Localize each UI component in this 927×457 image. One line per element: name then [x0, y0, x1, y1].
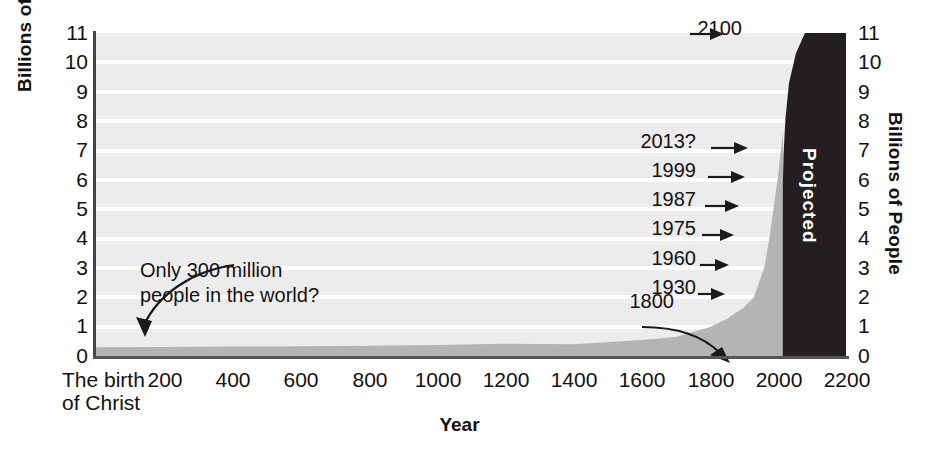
y-tick-right-11: 11: [846, 22, 906, 43]
arrow-1930: [698, 288, 725, 300]
y-tick-right-8: 8: [846, 110, 906, 131]
y-tick-right-1: 1: [846, 315, 906, 336]
annotation-early-population: Only 300 million people in the world?: [140, 258, 319, 308]
y-tick-right-10: 10: [846, 51, 906, 72]
annotation-1987: 1987: [628, 189, 696, 209]
y-tick-left-9: 9: [48, 81, 88, 102]
y-tick-right-2: 2: [846, 286, 906, 307]
annotation-1975: 1975: [628, 218, 696, 238]
y-tick-left-2: 2: [48, 286, 88, 307]
y-tick-right-3: 3: [846, 257, 906, 278]
y-tick-left-6: 6: [48, 169, 88, 190]
y-tick-left-11: 11: [48, 22, 88, 43]
y-tick-right-4: 4: [846, 227, 906, 248]
population-chart-figure: Billions of People Billions of People: [0, 0, 927, 457]
y-tick-left-4: 4: [48, 227, 88, 248]
y-tick-left-8: 8: [48, 110, 88, 131]
arrow-1987: [705, 200, 739, 212]
y-tick-left-5: 5: [48, 198, 88, 219]
annotation-2013: 2013?: [618, 131, 696, 151]
y-tick-right-5: 5: [846, 198, 906, 219]
annotation-1960: 1960: [628, 248, 696, 268]
y-tick-right-7: 7: [846, 139, 906, 160]
x-tick-2200: 2200: [802, 368, 892, 391]
y-tick-right-9: 9: [846, 81, 906, 102]
projected-region-label: Projected: [798, 148, 820, 244]
y-tick-left-3: 3: [48, 257, 88, 278]
annotation-1930: 1930: [628, 277, 696, 297]
y-tick-left-1: 1: [48, 315, 88, 336]
arrow-2100: [690, 28, 724, 40]
y-axis-line: [93, 31, 96, 358]
annotation-1999: 1999: [628, 160, 696, 180]
y-tick-left-7: 7: [48, 139, 88, 160]
y-tick-left-10: 10: [48, 51, 88, 72]
y-tick-left-0: 0: [48, 345, 88, 366]
x-axis-title-text: Year: [439, 414, 479, 436]
arrow-1999: [708, 171, 745, 183]
y-tick-right-6: 6: [846, 169, 906, 190]
year-1800-arrow: [636, 313, 786, 373]
x-axis-title: Year: [0, 414, 927, 436]
y-axis-title-left: Billions of People: [14, 0, 36, 92]
y-tick-right-0: 0: [846, 345, 906, 366]
arrow-1960: [700, 259, 729, 271]
arrow-1975: [702, 229, 734, 241]
arrow-2013: [711, 142, 748, 154]
x-axis-line: [93, 356, 849, 359]
